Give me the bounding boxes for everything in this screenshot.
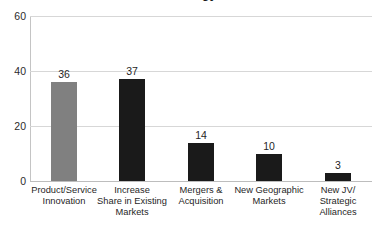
bar-increase-share-existing-markets[interactable] bbox=[119, 79, 145, 181]
x-label-line: Mergers & bbox=[162, 185, 240, 196]
bar-chart: Strategy 60 40 20 0 36 37 14 10 bbox=[0, 0, 382, 231]
bar-value-new-jv-strategic-alliances: 3 bbox=[304, 160, 372, 171]
x-label-mergers-acquisition: Mergers & Acquisition bbox=[162, 185, 240, 207]
bar-mergers-acquisition[interactable] bbox=[188, 143, 214, 182]
x-label-line: Acquisition bbox=[162, 196, 240, 207]
bar-product-service-innovation[interactable] bbox=[51, 82, 77, 181]
bar-new-geographic-markets[interactable] bbox=[256, 154, 282, 182]
bar-new-jv-strategic-alliances[interactable] bbox=[325, 173, 351, 181]
bar-group-product-service-innovation: 36 bbox=[30, 15, 98, 181]
bar-value-increase-share-existing-markets: 37 bbox=[98, 66, 166, 77]
bar-group-new-jv-strategic-alliances: 3 bbox=[304, 15, 372, 181]
x-label-product-service-innovation: Product/Service Innovation bbox=[25, 185, 103, 207]
x-axis-category-labels: Product/Service Innovation Increase Shar… bbox=[30, 185, 372, 231]
y-tick-label-40: 40 bbox=[2, 66, 26, 76]
x-label-line: Share in Existing bbox=[93, 196, 171, 207]
x-label-new-jv-strategic-alliances: New JV/ Strategic Alliances bbox=[299, 185, 377, 219]
x-label-increase-share-existing-markets: Increase Share in Existing Markets bbox=[93, 185, 171, 219]
x-label-line: New Geographic bbox=[230, 185, 308, 196]
x-label-line: Product/Service bbox=[25, 185, 103, 196]
bar-value-new-geographic-markets: 10 bbox=[235, 141, 303, 152]
bar-group-mergers-acquisition: 14 bbox=[167, 15, 235, 181]
x-label-line: Innovation bbox=[25, 196, 103, 207]
y-axis-tick-labels: 60 40 20 0 bbox=[0, 0, 26, 231]
y-tick-label-60: 60 bbox=[2, 11, 26, 21]
x-label-line: New JV/ bbox=[299, 185, 377, 196]
x-label-line: Markets bbox=[93, 207, 171, 218]
bar-value-product-service-innovation: 36 bbox=[30, 69, 98, 80]
x-label-line: Strategic bbox=[299, 196, 377, 207]
bar-group-increase-share-existing-markets: 37 bbox=[98, 15, 166, 181]
y-tick-label-20: 20 bbox=[2, 121, 26, 131]
x-label-line: Markets bbox=[230, 196, 308, 207]
y-tick-label-0: 0 bbox=[2, 176, 26, 186]
x-label-line: Alliances bbox=[299, 207, 377, 218]
bar-group-new-geographic-markets: 10 bbox=[235, 15, 303, 181]
x-label-new-geographic-markets: New Geographic Markets bbox=[230, 185, 308, 207]
x-label-line: Increase bbox=[93, 185, 171, 196]
bar-value-mergers-acquisition: 14 bbox=[167, 130, 235, 141]
